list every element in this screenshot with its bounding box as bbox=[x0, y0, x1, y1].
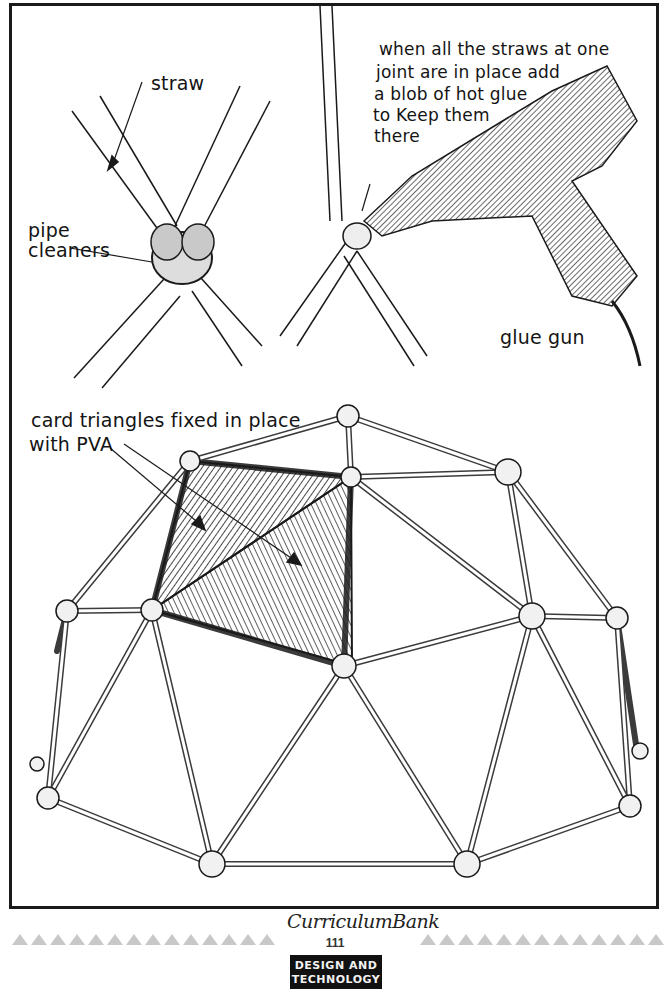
glue-instruction-line-3: a blob of hot glue bbox=[374, 84, 527, 104]
subject-tag-line-2: TECHNOLOGY bbox=[290, 973, 382, 987]
divider-triangles-right bbox=[420, 934, 664, 946]
subject-tag: DESIGN AND TECHNOLOGY bbox=[290, 955, 382, 989]
glue-instruction-line-1: when all the straws at one bbox=[379, 39, 609, 59]
illustration-drawing bbox=[12, 6, 656, 906]
glue-instruction-line-4: to Keep them bbox=[373, 105, 490, 125]
curriculum-bank-logo: CurriculumBank bbox=[287, 910, 383, 932]
straw-joint-drawing bbox=[70, 82, 270, 388]
glue-gun-drawing bbox=[280, 6, 640, 366]
page-footer: CurriculumBank 111 DESIGN AND TECHNOLOGY bbox=[0, 908, 666, 989]
card-triangles-caption-line-1: card triangles fixed in place bbox=[31, 409, 301, 431]
glue-gun-label: glue gun bbox=[500, 326, 585, 348]
divider-triangles-left bbox=[12, 934, 275, 946]
glue-instruction-line-5: there bbox=[374, 126, 420, 146]
pipe-cleaners-label-line1: pipe bbox=[28, 219, 70, 241]
illustration-frame: straw pipe cleaners when all the straws … bbox=[9, 3, 659, 909]
straw-label: straw bbox=[151, 72, 204, 94]
card-triangles-caption-line-2: with PVA bbox=[29, 433, 113, 455]
page-number: 111 bbox=[310, 936, 360, 950]
pipe-cleaners-label-line2: cleaners bbox=[28, 239, 110, 261]
subject-tag-line-1: DESIGN AND bbox=[290, 959, 382, 973]
geodesic-dome-drawing bbox=[30, 405, 648, 877]
glue-instruction-line-2: joint are in place add bbox=[376, 62, 560, 82]
